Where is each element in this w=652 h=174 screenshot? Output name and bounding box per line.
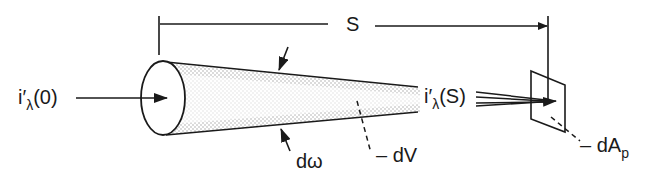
intensity-in-subscript: λ xyxy=(26,97,33,113)
area-subscript: p xyxy=(621,145,629,161)
path-length-label: S xyxy=(346,14,359,34)
solid-angle-label: dω xyxy=(296,151,323,171)
solid-angle-arrow-top xyxy=(279,47,288,70)
intensity-in-label: i′λ(0) xyxy=(18,87,58,107)
intensity-out-label: i′λ(S) xyxy=(424,86,466,106)
area-element-label: – dAp xyxy=(580,135,629,155)
intensity-out-subscript: λ xyxy=(432,96,439,112)
solid-angle-arrow-bottom xyxy=(281,129,290,151)
volume-element-label: – dV xyxy=(376,145,417,165)
intensity-out-argument: (S) xyxy=(439,85,466,107)
intensity-in-prefix: i′ xyxy=(18,86,26,108)
diagram-canvas xyxy=(0,0,652,174)
area-prefix: – dA xyxy=(580,134,621,156)
intensity-in-argument: (0) xyxy=(33,86,57,108)
outgoing-rays xyxy=(476,92,556,106)
beam-cone xyxy=(141,61,420,135)
intensity-out-prefix: i′ xyxy=(424,85,432,107)
